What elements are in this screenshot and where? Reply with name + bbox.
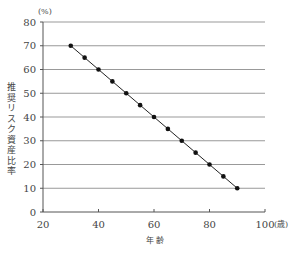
x-tick-label: 60 — [148, 219, 161, 230]
x-tick-label: 40 — [92, 219, 105, 230]
y-tick-label: 0 — [30, 207, 36, 218]
data-point-marker — [68, 43, 73, 48]
data-point-marker — [152, 115, 157, 120]
x-tick-label: 100 — [255, 219, 274, 230]
data-point-marker — [179, 138, 184, 143]
y-tick-label: 60 — [23, 64, 36, 75]
data-point-marker — [221, 174, 226, 179]
data-point-marker — [193, 150, 198, 155]
data-point-marker — [138, 103, 143, 108]
y-tick-label: 80 — [23, 17, 36, 28]
y-tick-label: 30 — [23, 135, 36, 146]
line-chart: 01020304050607080 20406080100 (%) (歳) 年 … — [0, 0, 297, 253]
y-tick-label: 10 — [23, 183, 36, 194]
data-point-marker — [110, 79, 115, 84]
data-point-marker — [166, 127, 171, 132]
y-tick-label: 50 — [23, 88, 36, 99]
data-point-marker — [82, 55, 87, 60]
x-tick-labels: 20406080100 — [37, 219, 275, 230]
y-tick-label: 70 — [23, 40, 36, 51]
x-tick-label: 20 — [37, 219, 50, 230]
data-point-marker — [124, 91, 129, 96]
y-axis-title: 推奨リスク資産比率 — [5, 82, 17, 177]
y-unit-label: (%) — [38, 7, 52, 16]
data-point-marker — [96, 67, 101, 72]
x-unit-label: (歳) — [274, 219, 288, 229]
y-tick-label: 20 — [23, 159, 36, 170]
y-tick-label: 40 — [23, 112, 36, 123]
gridlines — [43, 22, 265, 188]
y-tick-labels: 01020304050607080 — [23, 17, 36, 218]
x-axis-title: 年 齢 — [146, 235, 165, 245]
x-tick-label: 80 — [203, 219, 216, 230]
data-point-marker — [235, 186, 240, 191]
data-point-marker — [207, 162, 212, 167]
